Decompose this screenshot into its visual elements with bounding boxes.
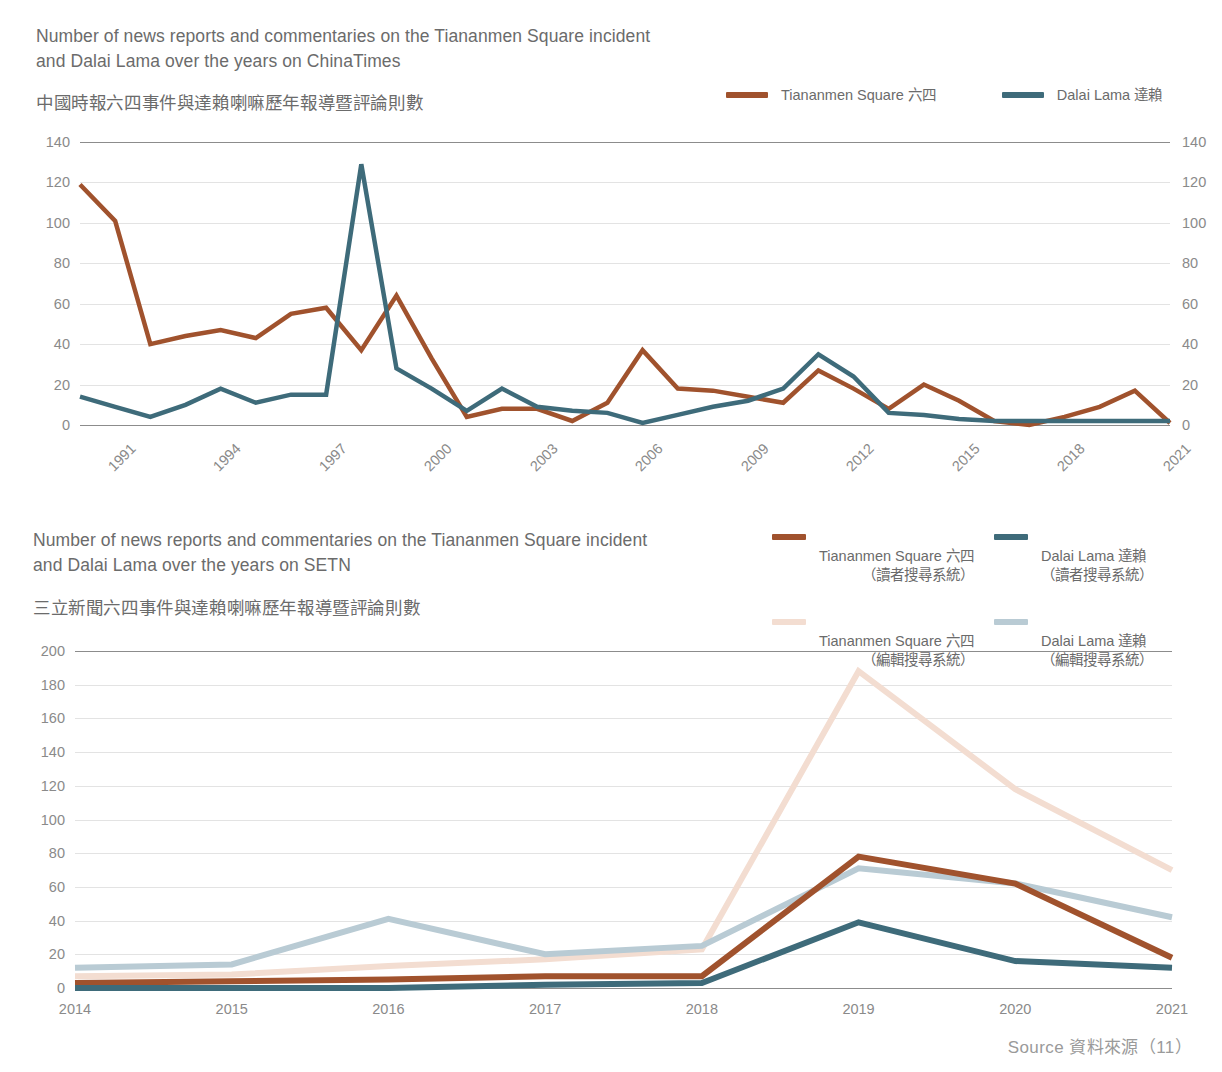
x-axis-tick-label: 2019 — [835, 1002, 883, 1016]
x-axis-tick-label: 1994 — [211, 441, 244, 474]
chart-chinatimes: Number of news reports and commentaries … — [0, 0, 1222, 500]
x-axis-tick-label: 2016 — [364, 1002, 412, 1016]
page-root: Number of news reports and commentaries … — [0, 0, 1222, 1072]
x-axis-tick-label: 2018 — [1055, 441, 1088, 474]
x-axis-tick-label: 1991 — [105, 441, 138, 474]
x-axis-tick-label: 2021 — [1160, 441, 1193, 474]
chart1-x-axis: 1991199419972000200320062009201220152018… — [0, 0, 1222, 500]
x-axis-tick-label: 2015 — [949, 441, 982, 474]
x-axis-tick-label: 2009 — [738, 441, 771, 474]
chart-setn: Number of news reports and commentaries … — [0, 500, 1222, 1072]
x-axis-tick-label: 2003 — [527, 441, 560, 474]
x-axis-tick-label: 2021 — [1148, 1002, 1196, 1016]
x-axis-tick-label: 2000 — [422, 441, 455, 474]
x-axis-tick-label: 2006 — [633, 441, 666, 474]
x-axis-tick-label: 1997 — [316, 441, 349, 474]
x-axis-tick-label: 2020 — [991, 1002, 1039, 1016]
x-axis-tick-label: 2018 — [678, 1002, 726, 1016]
chart2-x-axis: 20142015201620172018201920202021 — [0, 500, 1222, 1072]
x-axis-tick-label: 2014 — [51, 1002, 99, 1016]
x-axis-tick-label: 2017 — [521, 1002, 569, 1016]
source-note: Source 資料來源（11） — [1008, 1033, 1192, 1058]
x-axis-tick-label: 2012 — [844, 441, 877, 474]
x-axis-tick-label: 2015 — [208, 1002, 256, 1016]
